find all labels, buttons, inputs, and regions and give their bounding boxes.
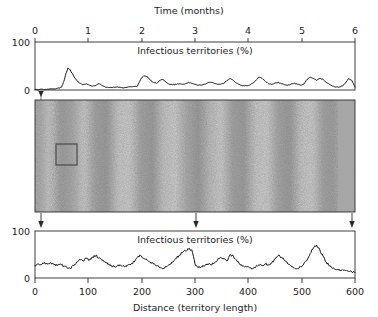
bottom-chart-trace bbox=[35, 245, 355, 273]
top-ytick-100: 100 bbox=[12, 37, 30, 48]
top-xtick-labels: 0 1 2 3 4 5 6 bbox=[32, 25, 358, 36]
top-inner-label: Infectious territories (%) bbox=[137, 45, 253, 56]
bottom-xtick-400: 400 bbox=[239, 286, 257, 297]
top-xtick-5: 5 bbox=[299, 25, 305, 36]
bottom-xtick-500: 500 bbox=[293, 286, 311, 297]
figure-root: Time (months) 0 1 2 3 4 5 6 100 0 Infect… bbox=[0, 0, 378, 317]
top-xtick-2: 2 bbox=[139, 25, 145, 36]
top-xticks bbox=[35, 38, 355, 42]
top-axis-title: Time (months) bbox=[153, 5, 223, 16]
bottom-axis-title: Distance (territory length) bbox=[133, 302, 257, 313]
figure-svg: Time (months) 0 1 2 3 4 5 6 100 0 Infect… bbox=[0, 0, 378, 317]
bottom-xticks bbox=[35, 278, 355, 283]
bottom-chart: 100 0 Infectious territories (%) 0 100 2… bbox=[12, 226, 364, 313]
top-chart: Time (months) 0 1 2 3 4 5 6 100 0 Infect… bbox=[12, 5, 358, 96]
top-xtick-1: 1 bbox=[85, 25, 91, 36]
bottom-xtick-600: 600 bbox=[346, 286, 364, 297]
bottom-xtick-labels: 0 100 200 300 400 500 600 bbox=[32, 286, 364, 297]
bottom-xtick-300: 300 bbox=[186, 286, 204, 297]
bottom-xtick-100: 100 bbox=[79, 286, 97, 297]
top-chart-trace bbox=[35, 68, 355, 90]
top-xtick-4: 4 bbox=[245, 25, 251, 36]
bottom-ytick-100: 100 bbox=[12, 226, 30, 237]
top-xtick-0: 0 bbox=[32, 25, 38, 36]
bottom-inner-label: Infectious territories (%) bbox=[137, 234, 253, 245]
top-xtick-3: 3 bbox=[192, 25, 198, 36]
arrow-marker-right bbox=[349, 213, 354, 228]
arrow-marker-center bbox=[193, 213, 198, 228]
top-ytick-0: 0 bbox=[24, 85, 30, 96]
arrow-marker-left bbox=[38, 213, 43, 228]
bottom-ytick-0: 0 bbox=[24, 273, 30, 284]
spatiotemporal-raster bbox=[30, 95, 360, 217]
panel-arrow-markers bbox=[38, 213, 354, 228]
bottom-xtick-200: 200 bbox=[133, 286, 151, 297]
bottom-xtick-0: 0 bbox=[32, 286, 38, 297]
top-xtick-6: 6 bbox=[352, 25, 358, 36]
